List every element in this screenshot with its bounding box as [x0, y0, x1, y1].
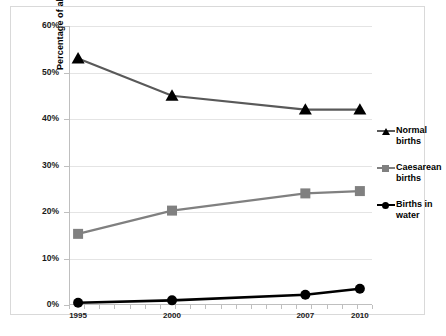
- plot-area: Percentage of all women giving birth: [69, 26, 372, 305]
- chart-legend: Normal births Caesarean births: [377, 125, 446, 236]
- x-axis-label: 2000: [152, 311, 192, 320]
- x-tick: [99, 305, 100, 309]
- legend-key-square-icon: [377, 163, 395, 173]
- series-line: [78, 289, 360, 303]
- legend-key-triangle-icon: [377, 126, 395, 136]
- series-line: [78, 191, 360, 234]
- legend-label-caesarean-births: Caesarean births: [396, 162, 442, 184]
- x-tick: [266, 305, 267, 309]
- y-axis-label: 20%: [19, 207, 59, 216]
- data-point-marker: [300, 188, 310, 198]
- x-tick: [145, 305, 146, 309]
- x-tick: [342, 305, 343, 309]
- y-axis-label: 40%: [19, 114, 59, 123]
- series-lines: [69, 26, 372, 305]
- data-point-marker: [167, 295, 177, 305]
- x-tick: [251, 305, 252, 309]
- legend-label-normal-births: Normal births: [396, 125, 427, 147]
- data-point-marker: [167, 206, 177, 216]
- chart-frame: Percentage of all women giving birth 0%1…: [10, 6, 425, 315]
- legend-label-births-in-water: Births in water: [396, 199, 433, 221]
- x-axis-label: 1995: [58, 311, 98, 320]
- legend-item-normal-births[interactable]: Normal births: [377, 125, 446, 147]
- data-point-marker: [73, 298, 83, 308]
- series-line: [78, 59, 360, 110]
- x-tick: [160, 305, 161, 309]
- legend-key-circle-icon: [377, 200, 395, 210]
- data-point-marker: [355, 186, 365, 196]
- y-axis-label: 10%: [19, 254, 59, 263]
- x-tick: [205, 305, 206, 309]
- x-tick: [114, 305, 115, 309]
- x-tick: [175, 305, 176, 309]
- x-tick: [236, 305, 237, 309]
- x-tick: [327, 305, 328, 309]
- x-tick: [296, 305, 297, 309]
- y-axis-label: 50%: [19, 68, 59, 77]
- x-tick: [281, 305, 282, 309]
- x-axis-label: 2007: [285, 311, 325, 320]
- data-point-marker: [300, 290, 310, 300]
- x-tick: [69, 305, 70, 309]
- y-axis-label: 0%: [19, 300, 59, 309]
- legend-item-births-in-water[interactable]: Births in water: [377, 199, 446, 221]
- data-point-marker: [73, 229, 83, 239]
- data-point-marker: [72, 52, 85, 63]
- legend-item-caesarean-births[interactable]: Caesarean births: [377, 162, 446, 184]
- x-axis-label: 2010: [340, 311, 380, 320]
- x-tick: [357, 305, 358, 309]
- y-axis-label: 60%: [19, 21, 59, 30]
- y-axis-label: 30%: [19, 161, 59, 170]
- y-axis-title: Percentage of all women giving birth: [55, 0, 65, 70]
- x-tick: [130, 305, 131, 309]
- x-tick: [311, 305, 312, 309]
- x-tick: [372, 305, 373, 309]
- data-point-marker: [355, 284, 365, 294]
- x-tick: [190, 305, 191, 309]
- x-tick: [221, 305, 222, 309]
- x-tick: [84, 305, 85, 309]
